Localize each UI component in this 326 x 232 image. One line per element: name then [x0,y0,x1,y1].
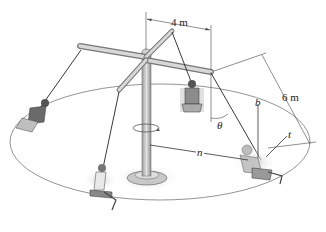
rope-right [211,73,261,160]
b-axis-label: b [255,97,261,108]
swing-carousel-diagram: 4 m 6 m θ b t n [0,0,326,232]
rope-length-label: 6 m [282,92,299,103]
arm-length-label: 4 m [171,17,188,28]
theta-arc [211,114,228,119]
n-axis-label: n [196,147,204,158]
rope-front [103,92,119,168]
theta-label: θ [217,120,222,131]
dim-6m-top-extension [214,53,266,71]
rider-right [233,145,282,184]
rope-back [172,32,192,84]
dim-6m-bottom-extension [268,142,316,148]
rotation-arrowhead [156,128,160,131]
diagram-canvas [0,0,326,232]
t-axis-label: t [288,129,291,140]
central-post [142,52,151,176]
rider-front [82,164,118,210]
t-axis [266,136,287,157]
rider-left [16,99,52,132]
